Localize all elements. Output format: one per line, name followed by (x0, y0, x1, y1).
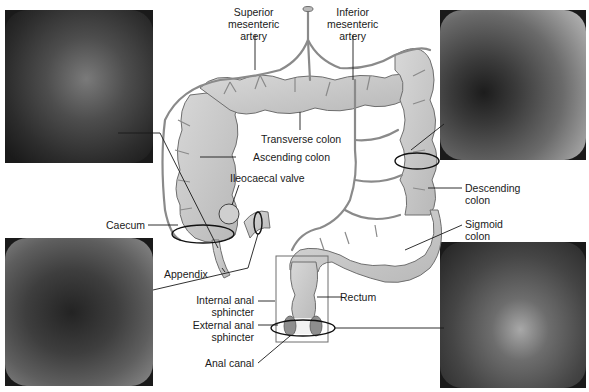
label-transverse-colon: Transverse colon (261, 133, 341, 145)
label-appendix: Appendix (164, 268, 208, 280)
label-line: sphincter (176, 331, 254, 343)
label-sigmoid-colon: Sigmoid colon (465, 218, 503, 242)
label-descending-colon: Descending colon (465, 182, 520, 206)
label-line: colon (465, 194, 520, 206)
colon-shape (176, 49, 442, 322)
label-line: artery (228, 30, 279, 42)
label-anal-canal: Anal canal (190, 357, 254, 369)
label-internal-anal-sphincter: Internal anal sphincter (180, 294, 254, 318)
label-inferior-mesenteric-artery: Inferior mesenteric artery (327, 6, 378, 42)
label-rectum: Rectum (340, 291, 376, 303)
label-external-anal-sphincter: External anal sphincter (176, 319, 254, 343)
label-superior-mesenteric-artery: Superior mesenteric artery (228, 6, 279, 42)
label-line: mesenteric (228, 18, 279, 30)
external-sphincter-right (310, 316, 322, 336)
label-line: Inferior (327, 6, 378, 18)
label-line: Descending (465, 182, 520, 194)
ileocaecal-valve-inset (219, 204, 239, 224)
label-ileocaecal-valve: Ileocaecal valve (230, 172, 305, 184)
label-line: sphincter (180, 306, 254, 318)
label-line: Internal anal (180, 294, 254, 306)
label-line: mesenteric (327, 18, 378, 30)
external-sphincter-left (284, 316, 296, 336)
label-line: colon (465, 230, 503, 242)
label-line: External anal (176, 319, 254, 331)
label-caecum: Caecum (106, 219, 145, 231)
label-line: artery (327, 30, 378, 42)
label-ascending-colon: Ascending colon (253, 151, 330, 163)
label-line: Sigmoid (465, 218, 503, 230)
label-line: Superior (228, 6, 279, 18)
